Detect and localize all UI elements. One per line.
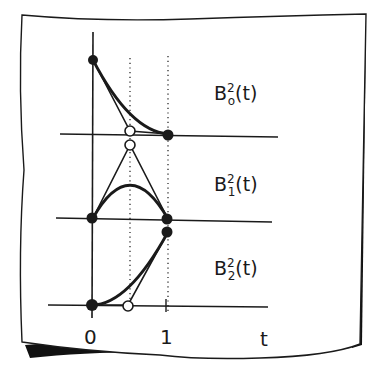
control-point-b2-2: [162, 227, 173, 238]
label-b0: B2o(t): [214, 81, 257, 108]
control-point-b2-0: [86, 299, 98, 311]
tick-label-one: 1: [160, 325, 173, 349]
tick-label-zero: 0: [84, 325, 97, 349]
control-point-b1-2: [162, 214, 173, 225]
bernstein-diagram: B2o(t) B21(t) B22(t) 0 1 t: [0, 0, 376, 378]
control-point-b1-1: [125, 140, 135, 150]
control-point-b2-1: [123, 301, 133, 311]
control-point-b1-0: [87, 213, 98, 224]
control-point-b0-0: [88, 55, 98, 65]
control-point-b0-1: [125, 126, 135, 136]
axis-label-t: t: [260, 327, 268, 351]
control-point-b0-2: [163, 130, 174, 141]
label-b1: B21(t): [214, 172, 258, 199]
label-b2: B22(t): [214, 256, 258, 283]
vertical-axis: [92, 32, 93, 318]
